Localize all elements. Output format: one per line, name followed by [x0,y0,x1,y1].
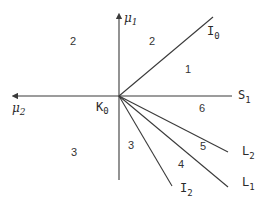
region-2-left: 2 [70,35,76,47]
s1-label: S1 [238,88,251,105]
region-5: 5 [200,140,206,152]
ray-L1 [119,96,228,187]
mu2-label: μ2 [12,101,26,117]
ray-I0 [119,17,213,96]
origin-label: K0 [96,100,109,116]
I0-label: I0 [207,24,220,41]
region-3-left: 3 [71,146,77,158]
region-2-right: 2 [149,35,155,47]
mu1-label: μ1 [124,11,138,27]
region-6: 6 [199,102,205,114]
L2-label: L2 [242,144,255,161]
region-4: 4 [178,158,184,170]
L1-label: L1 [242,175,255,192]
region-3-right: 3 [128,139,134,151]
phase-diagram: μ1 μ2 S1 K0 I0 L2 L1 I2 2 2 1 6 5 4 3 3 [0,0,271,211]
I2-label: I2 [180,181,193,198]
region-1: 1 [185,63,191,75]
